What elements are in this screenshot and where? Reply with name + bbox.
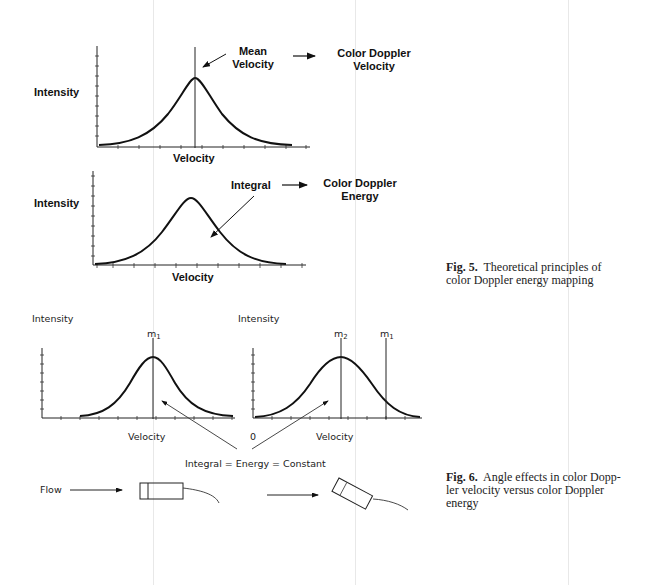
caption-text: Angle effects in color Dopp- bbox=[483, 470, 621, 484]
color-doppler-energy-label: Color Doppler Energy bbox=[314, 177, 406, 203]
color-doppler-velocity-label: Color Doppler Velocity bbox=[328, 47, 420, 73]
fig5-bottom-ylabel: Intensity bbox=[34, 197, 79, 210]
fig6-right-marker-m1: m1 bbox=[380, 328, 394, 343]
fig6-caption: Fig. 6. Angle effects in color Dopp- ler… bbox=[446, 471, 621, 510]
result-line: Color Doppler bbox=[314, 177, 406, 190]
annotation-line: Velocity bbox=[222, 58, 284, 71]
caption-label: Fig. 6. bbox=[446, 470, 478, 484]
fig5-bottom-xlabel: Velocity bbox=[172, 271, 214, 284]
result-line: Velocity bbox=[328, 60, 420, 73]
fig6-left-marker-m1: m1 bbox=[147, 328, 161, 343]
fig6-right-chart bbox=[251, 338, 422, 420]
flow-diagram bbox=[70, 478, 408, 510]
fig6-right-marker-m2: m2 bbox=[334, 328, 348, 343]
fig6-right-ylabel: Intensity bbox=[238, 313, 279, 325]
result-line: Energy bbox=[314, 190, 406, 203]
marker-text: m bbox=[334, 328, 343, 339]
marker-text: m bbox=[380, 328, 389, 339]
fig6-right-xlabel: Velocity bbox=[316, 431, 353, 443]
fig5-top-ylabel: Intensity bbox=[34, 86, 79, 99]
fig5-top-xlabel: Velocity bbox=[173, 152, 215, 165]
caption-text: Theoretical principles of bbox=[483, 260, 601, 274]
equation-label: Integral = Energy = Constant bbox=[185, 458, 326, 470]
mean-velocity-annotation: Mean Velocity bbox=[222, 45, 284, 71]
fig6-left-xlabel: Velocity bbox=[128, 431, 165, 443]
caption-label: Fig. 5. bbox=[446, 260, 478, 274]
caption-text: energy bbox=[446, 497, 621, 510]
result-line: Color Doppler bbox=[328, 47, 420, 60]
fig6-left-ylabel: Intensity bbox=[32, 313, 73, 325]
caption-text: color Doppler energy mapping bbox=[446, 274, 601, 287]
marker-subscript: 2 bbox=[343, 333, 347, 341]
marker-subscript: 1 bbox=[156, 333, 160, 341]
annotation-line: Mean bbox=[222, 45, 284, 58]
marker-text: m bbox=[147, 328, 156, 339]
marker-subscript: 1 bbox=[389, 333, 393, 341]
flow-label: Flow bbox=[40, 484, 62, 496]
fig5-caption: Fig. 5. Theoretical principles of color … bbox=[446, 261, 601, 287]
fig5-bottom-chart bbox=[91, 171, 307, 268]
integral-annotation: Integral bbox=[231, 179, 271, 192]
fig6-left-chart bbox=[40, 338, 235, 420]
fig6-right-origin: 0 bbox=[250, 431, 256, 443]
